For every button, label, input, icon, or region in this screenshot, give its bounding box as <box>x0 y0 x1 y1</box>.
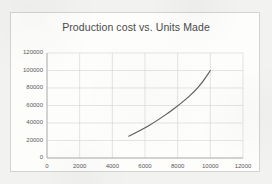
y-tick-label: 0 <box>11 154 43 160</box>
y-tick-label: 60000 <box>11 102 43 108</box>
y-tick-label: 120000 <box>11 49 43 55</box>
x-tick-label: 6000 <box>130 163 160 169</box>
x-tick-label: 2000 <box>65 163 95 169</box>
y-tick-label: 100000 <box>11 67 43 73</box>
chart-container: Production cost vs. Units Made 020000400… <box>10 12 260 172</box>
y-tick-label: 40000 <box>11 119 43 125</box>
series-line-production-cost <box>129 71 211 137</box>
x-tick-label: 10000 <box>195 163 225 169</box>
gridlines <box>47 53 243 158</box>
x-tick-label: 4000 <box>97 163 127 169</box>
x-tick-label: 0 <box>32 163 62 169</box>
x-tick-label: 8000 <box>163 163 193 169</box>
x-tick-label: 12000 <box>228 163 258 169</box>
plot-area <box>11 13 261 173</box>
y-tick-label: 20000 <box>11 137 43 143</box>
y-tick-label: 80000 <box>11 84 43 90</box>
